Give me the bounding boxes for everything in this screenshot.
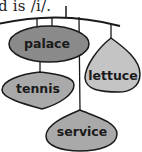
string-service — [79, 17, 80, 111]
tag-palace: palace — [9, 26, 89, 62]
tag-label-lettuce: lettuce — [88, 68, 138, 83]
tag-label-service: service — [57, 124, 107, 139]
tag-tennis: tennis — [2, 72, 74, 109]
word-mobile-diagram: lettuce palace tennis service — [0, 0, 142, 152]
tag-lettuce: lettuce — [85, 38, 140, 92]
tag-service: service — [46, 110, 117, 151]
hanger-bar — [0, 17, 120, 26]
tag-label-palace: palace — [24, 36, 70, 51]
tag-label-tennis: tennis — [16, 81, 60, 96]
